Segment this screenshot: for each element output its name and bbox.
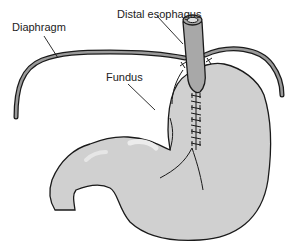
stomach bbox=[50, 63, 271, 240]
diagram-illustration bbox=[0, 0, 296, 245]
label-diaphragm: Diaphragm bbox=[12, 22, 66, 33]
fundoplication-diagram: Diaphragm Distal esophagus Fundus bbox=[0, 0, 296, 245]
label-distal-esophagus: Distal esophagus bbox=[117, 9, 201, 20]
esophagus-leader bbox=[157, 16, 183, 44]
label-fundus: Fundus bbox=[106, 72, 143, 83]
fundus-leader bbox=[128, 84, 155, 110]
